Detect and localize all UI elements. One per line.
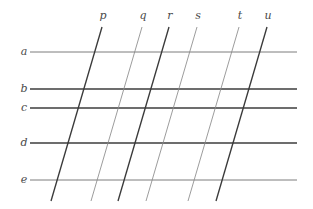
horizontal-line-label-b: b: [20, 82, 27, 95]
transversal-line-label-t: t: [238, 9, 243, 22]
horizontal-line-label-e: e: [21, 173, 28, 186]
transversal-line-p: [51, 27, 102, 201]
diagram-canvas: abcde pqrstu: [0, 0, 313, 209]
transversal-line-u: [216, 27, 267, 201]
transversal-line-label-r: r: [167, 9, 173, 22]
horizontal-line-labels-group: abcde: [20, 45, 27, 186]
transversal-lines-group: [51, 27, 267, 201]
transversal-line-t: [188, 27, 239, 201]
horizontal-line-label-c: c: [21, 101, 27, 114]
transversal-line-label-s: s: [195, 9, 201, 22]
transversal-line-label-p: p: [99, 9, 106, 22]
horizontal-line-label-d: d: [20, 136, 27, 149]
transversal-line-label-q: q: [139, 9, 146, 22]
transversal-line-s: [146, 27, 197, 201]
geometry-diagram: abcde pqrstu: [0, 0, 313, 209]
horizontal-lines-group: [30, 52, 297, 180]
transversal-line-r: [118, 27, 169, 201]
horizontal-line-label-a: a: [21, 45, 28, 58]
transversal-line-q: [91, 27, 142, 201]
transversal-line-labels-group: pqrstu: [99, 9, 271, 22]
transversal-line-label-u: u: [264, 9, 271, 22]
